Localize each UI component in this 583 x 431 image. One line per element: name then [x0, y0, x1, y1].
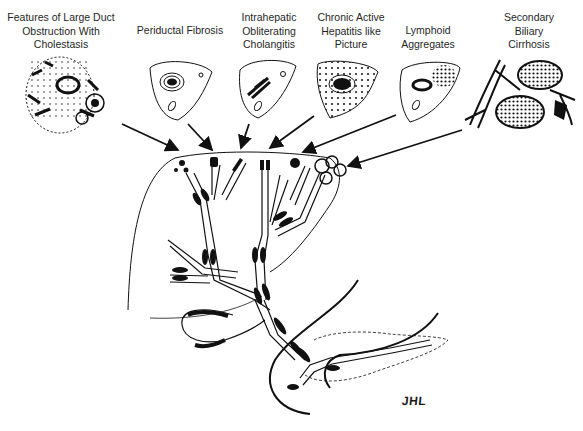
dilated-ducts — [315, 156, 346, 184]
biliary-diagram — [0, 0, 583, 431]
gallbladder — [150, 296, 265, 346]
pointer-arrows — [122, 115, 462, 166]
biliary-tree — [168, 160, 325, 360]
histology-secondary-biliary-cirrhosis — [462, 55, 575, 128]
artist-signature: JHL — [401, 394, 427, 408]
histology-large-duct — [26, 57, 104, 133]
liver-outline — [128, 152, 339, 310]
histology-periductal-fibrosis — [150, 62, 212, 120]
histology-obliterating-cholangitis — [240, 60, 296, 118]
histology-lymphoid-aggregates — [400, 62, 460, 122]
pancreas — [287, 332, 448, 390]
histology-chronic-active-hepatitis — [317, 61, 378, 118]
peripheral-lesions — [174, 157, 300, 173]
